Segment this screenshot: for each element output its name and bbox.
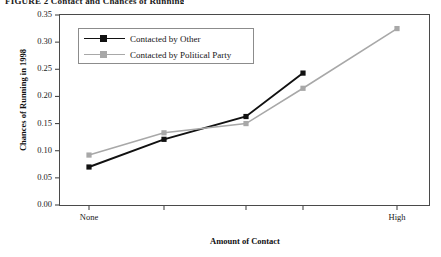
legend-label-party: Contacted by Political Party — [130, 50, 231, 60]
y-tick-label: 0.00 — [18, 199, 52, 209]
x-axis-title: Amount of Contact — [60, 236, 430, 246]
y-tick-label: 0.25 — [18, 63, 52, 73]
data-point-marker — [243, 114, 248, 119]
data-point-marker — [300, 86, 305, 91]
chart-legend: Contacted by Other Contacted by Politica… — [78, 28, 254, 64]
y-tick-label: 0.20 — [18, 90, 52, 100]
figure-title: FIGURE 2 Contact and Chances of Running — [5, 0, 184, 4]
y-tick-label: 0.30 — [18, 36, 52, 46]
data-point-marker — [86, 164, 91, 169]
data-point-marker — [86, 152, 91, 157]
legend-item-contacted-by-other: Contacted by Other — [84, 31, 200, 46]
data-point-marker — [300, 70, 305, 75]
series-line-other — [89, 73, 303, 167]
y-tick-label: 0.05 — [18, 172, 52, 182]
legend-label-other: Contacted by Other — [130, 34, 200, 44]
data-point-marker — [161, 137, 166, 142]
x-tick-label: None — [59, 212, 119, 222]
legend-item-contacted-by-political-party: Contacted by Political Party — [84, 47, 231, 62]
legend-swatch-party — [84, 54, 125, 56]
data-point-marker — [243, 121, 248, 126]
x-tick-label: High — [367, 212, 427, 222]
y-tick-label: 0.10 — [18, 145, 52, 155]
data-point-marker — [394, 26, 399, 31]
data-point-marker — [161, 130, 166, 135]
y-tick-label: 0.35 — [18, 9, 52, 19]
legend-swatch-other — [84, 38, 125, 40]
figure-container: FIGURE 2 Contact and Chances of Running … — [0, 0, 441, 257]
y-tick-label: 0.15 — [18, 118, 52, 128]
